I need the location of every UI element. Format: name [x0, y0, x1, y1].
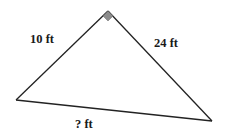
- right-leg-line: [108, 11, 212, 121]
- hypotenuse-line: [16, 100, 212, 121]
- triangle-diagram: 10 ft 24 ft ? ft: [0, 0, 226, 133]
- hypotenuse-label: ? ft: [75, 117, 94, 131]
- right-angle-marker-icon: [103, 11, 113, 21]
- right-leg-label: 24 ft: [154, 36, 179, 50]
- left-leg-line: [16, 11, 108, 100]
- left-leg-label: 10 ft: [30, 32, 55, 46]
